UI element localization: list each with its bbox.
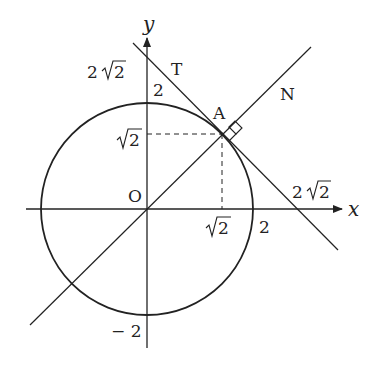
x-tick-root2: 2 <box>206 217 231 238</box>
svg-text:2: 2 <box>319 182 330 202</box>
normal-line-n <box>30 47 311 325</box>
svg-text:2: 2 <box>87 62 98 82</box>
x-tick-2: 2 <box>259 217 270 237</box>
diagram-canvas: y x O A T N 2 2 2 2 − 2 2 2 2 2 <box>0 0 375 366</box>
x-tick-2root2: 2 2 <box>292 181 331 202</box>
point-a-label: A <box>212 103 226 123</box>
y-axis-label: y <box>142 12 155 36</box>
svg-text:2: 2 <box>129 130 140 150</box>
tangent-line-t <box>133 43 338 250</box>
x-axis-label: x <box>348 197 359 221</box>
point-a <box>220 132 223 135</box>
y-tick-root2: 2 <box>117 129 142 150</box>
y-tick-2: 2 <box>153 80 164 100</box>
svg-text:2: 2 <box>114 62 125 82</box>
origin-label: O <box>128 186 142 206</box>
svg-text:2: 2 <box>218 218 229 238</box>
svg-text:2: 2 <box>292 182 303 202</box>
y-tick-neg2: − 2 <box>111 321 141 341</box>
y-tick-2root2: 2 2 <box>87 61 126 82</box>
normal-label-n: N <box>280 84 295 104</box>
right-angle-marker <box>229 127 236 141</box>
tangent-label-t: T <box>171 59 183 79</box>
